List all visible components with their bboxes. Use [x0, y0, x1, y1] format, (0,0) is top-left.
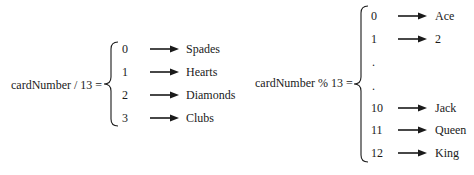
right-arrow-icon [150, 68, 180, 76]
right-arrow-icon [398, 104, 428, 112]
rank-label: Jack [435, 101, 456, 115]
rank-expression: cardNumber % 13 = [255, 76, 353, 90]
right-arrow-icon [398, 12, 428, 20]
rank-value: 0 [371, 9, 377, 23]
right-arrow-icon [150, 91, 180, 99]
rank-value: 12 [371, 146, 383, 160]
suit-value: 0 [122, 42, 128, 56]
suit-label: Diamonds [186, 88, 235, 102]
rank-value: 11 [371, 123, 383, 137]
right-arrow-icon [398, 35, 428, 43]
left-brace-icon [102, 41, 120, 127]
right-arrow-icon [150, 45, 180, 53]
suit-value: 2 [122, 88, 128, 102]
ellipsis-dot: . [372, 55, 375, 69]
rank-value: 10 [371, 101, 383, 115]
right-arrow-icon [150, 114, 180, 122]
rank-label: Ace [435, 9, 454, 23]
ellipsis-dot: . [372, 79, 375, 93]
right-arrow-icon [398, 126, 428, 134]
right-brace-icon [352, 5, 370, 163]
right-arrow-icon [398, 149, 428, 157]
suit-value: 3 [122, 111, 128, 125]
suit-expression: cardNumber / 13 = [11, 78, 102, 92]
suit-value: 1 [122, 65, 128, 79]
rank-label: Queen [435, 123, 466, 137]
suit-label: Spades [186, 42, 220, 56]
suit-label: Clubs [186, 111, 214, 125]
rank-label: King [435, 146, 459, 160]
rank-label: 2 [435, 32, 441, 46]
rank-value: 1 [371, 32, 377, 46]
suit-label: Hearts [186, 65, 217, 79]
